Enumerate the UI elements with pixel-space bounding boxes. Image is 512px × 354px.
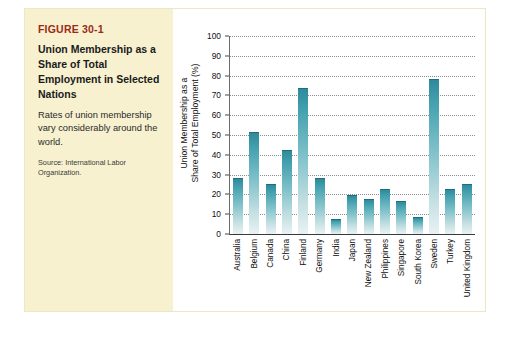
x-axis-category-labels: AustraliaBelgiumCanadaChinaFinlandGerman… [229, 237, 475, 311]
x-label-slot: Japan [344, 237, 360, 311]
bar-slot [426, 36, 442, 234]
y-tick-label: 80 [212, 71, 221, 81]
x-label-slot: Australia [229, 237, 245, 311]
bar-slot [393, 36, 409, 234]
x-tick-label: Belgium [249, 239, 258, 269]
bar[interactable] [445, 189, 455, 234]
y-tick-label: 90 [212, 51, 221, 61]
x-label-slot: Belgium [245, 237, 261, 311]
y-tick-label: 30 [212, 170, 221, 180]
bar[interactable] [315, 178, 325, 234]
plot-area [229, 36, 475, 235]
x-tick-label: Canada [266, 239, 275, 268]
bar[interactable] [282, 150, 292, 234]
bar[interactable] [298, 88, 308, 234]
bar-slot [344, 36, 360, 234]
bar-slot [295, 36, 311, 234]
bar[interactable] [233, 178, 243, 234]
bar[interactable] [347, 195, 357, 234]
x-label-slot: Turkey [442, 237, 458, 311]
x-label-slot: Finland [295, 237, 311, 311]
bar-slot [246, 36, 262, 234]
x-label-slot: Philippines [377, 237, 393, 311]
x-label-slot: Sweden [426, 237, 442, 311]
bar-slot [410, 36, 426, 234]
x-label-slot: South Korea [409, 237, 425, 311]
x-label-slot: United Kingdom [459, 237, 475, 311]
x-label-slot: Canada [262, 237, 278, 311]
y-tick-label: 50 [212, 130, 221, 140]
y-tick-label: 20 [212, 189, 221, 199]
bar-slot [377, 36, 393, 234]
figure-title: Union Membership as a Share of Total Emp… [38, 42, 161, 102]
bar-slot [361, 36, 377, 234]
x-tick-label: China [282, 239, 291, 260]
bar-slot [312, 36, 328, 234]
chart-panel: Union Membership as a Share of Total Emp… [173, 9, 485, 311]
x-tick-label: Philippines [380, 239, 389, 279]
x-label-slot: Germany [311, 237, 327, 311]
x-label-slot: China [278, 237, 294, 311]
bar-slot [459, 36, 475, 234]
bar[interactable] [249, 132, 259, 234]
y-axis-title-line1: Union Membership as a [179, 78, 190, 169]
figure-caption-panel: FIGURE 30-1 Union Membership as a Share … [25, 9, 173, 311]
x-tick-label: Australia [233, 239, 242, 271]
bar[interactable] [331, 219, 341, 234]
bar-slot [442, 36, 458, 234]
x-label-slot: New Zealand [360, 237, 376, 311]
x-tick-label: Germany [315, 239, 324, 273]
x-tick-label: United Kingdom [462, 239, 471, 297]
figure-description: Rates of union membership vary considera… [38, 109, 161, 149]
x-label-slot: Singapore [393, 237, 409, 311]
y-tick-label: 70 [212, 90, 221, 100]
figure-source: Source: International Labor Organization… [38, 158, 161, 179]
bar[interactable] [364, 199, 374, 234]
y-tick-label: 60 [212, 110, 221, 120]
bar[interactable] [429, 79, 439, 234]
bar-slot [328, 36, 344, 234]
y-tick-label: 0 [216, 229, 221, 239]
x-tick-label: Sweden [430, 239, 439, 269]
x-label-slot: India [327, 237, 343, 311]
y-tick-label: 10 [212, 209, 221, 219]
bar[interactable] [380, 189, 390, 234]
bar[interactable] [266, 184, 276, 235]
x-tick-label: Japan [348, 239, 357, 261]
x-tick-label: Turkey [446, 239, 455, 264]
bar[interactable] [462, 184, 472, 235]
y-axis-tick-labels: 0102030405060708090100 [199, 36, 225, 234]
x-tick-label: India [331, 239, 340, 257]
bar-slot [230, 36, 246, 234]
x-tick-label: South Korea [413, 239, 422, 285]
plot-wrapper: Union Membership as a Share of Total Emp… [173, 9, 485, 311]
x-tick-label: Finland [298, 239, 307, 266]
x-tick-label: Singapore [397, 239, 406, 276]
x-tick-label: New Zealand [364, 239, 373, 287]
y-tick-label: 40 [212, 150, 221, 160]
bar-slot [279, 36, 295, 234]
figure-frame: FIGURE 30-1 Union Membership as a Share … [24, 8, 486, 312]
bar[interactable] [413, 217, 423, 234]
figure-number: FIGURE 30-1 [38, 23, 161, 35]
bar[interactable] [396, 201, 406, 234]
y-tick-label: 100 [207, 31, 221, 41]
bar-slot [263, 36, 279, 234]
bar-series [230, 36, 475, 234]
